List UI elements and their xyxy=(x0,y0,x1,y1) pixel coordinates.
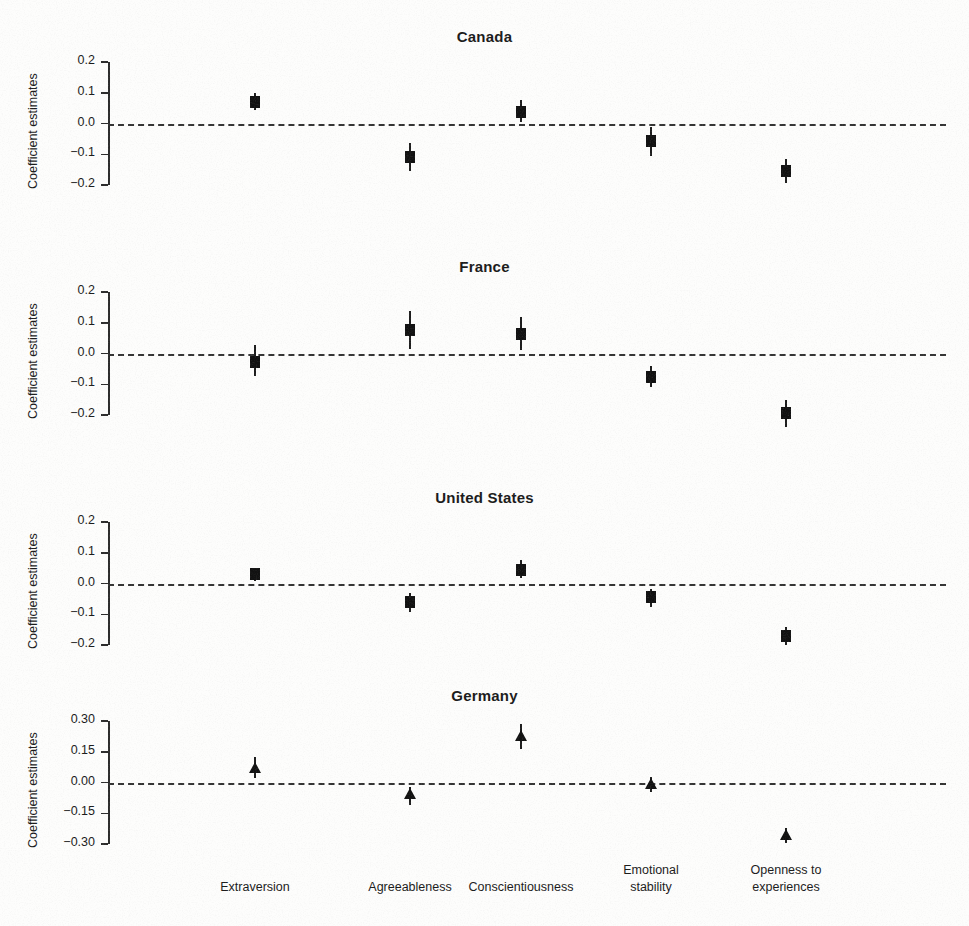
x-axis-category-emotional-stability: Emotionalstability xyxy=(581,862,721,896)
x-axis-category-line: Conscientiousness xyxy=(451,879,591,896)
y-tick-label: 0.30 xyxy=(11,712,95,726)
x-axis-category-line: stability xyxy=(581,879,721,896)
data-point-marker xyxy=(515,730,527,741)
x-axis-category-extraversion: Extraversion xyxy=(185,879,325,896)
y-tick-label: −0.15 xyxy=(11,804,95,818)
coefficient-plot-figure: CanadaCoefficient estimates0.20.10.0−0.1… xyxy=(0,0,969,926)
x-axis-category-conscientiousness: Conscientiousness xyxy=(451,879,591,896)
panel-germany: GermanyCoefficient estimates0.300.150.00… xyxy=(0,0,969,926)
y-tick-label: −0.30 xyxy=(11,835,95,849)
zero-reference-line xyxy=(108,783,946,785)
data-point-marker xyxy=(645,778,657,789)
y-tick-mark xyxy=(101,720,108,722)
y-tick-mark xyxy=(101,751,108,753)
panel-title-germany: Germany xyxy=(0,687,969,704)
x-axis-category-line: experiences xyxy=(716,879,856,896)
x-axis-category-openness-to-experiences: Openness toexperiences xyxy=(716,862,856,896)
y-tick-mark xyxy=(101,843,108,845)
y-tick-label: 0.15 xyxy=(11,743,95,757)
x-axis-category-line: Openness to xyxy=(716,862,856,879)
data-point-marker xyxy=(780,829,792,840)
x-axis-category-line: Extraversion xyxy=(185,879,325,896)
y-tick-mark xyxy=(101,782,108,784)
y-tick-label: 0.00 xyxy=(11,774,95,788)
data-point-marker xyxy=(249,762,261,773)
x-axis-category-line: Emotional xyxy=(581,862,721,879)
data-point-marker xyxy=(404,788,416,799)
y-tick-mark xyxy=(101,813,108,815)
